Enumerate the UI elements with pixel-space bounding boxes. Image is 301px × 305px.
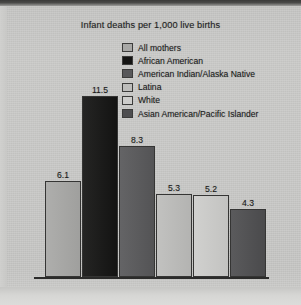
bar-white <box>193 195 229 277</box>
bar-all-mothers <box>45 181 81 277</box>
bar-value-label: 5.2 <box>193 184 229 194</box>
chart-image: Infant deaths per 1,000 live births All … <box>0 0 301 305</box>
bar-latina <box>156 194 192 277</box>
bar-value-label: 4.3 <box>230 198 266 208</box>
bar-value-label: 11.5 <box>82 85 118 95</box>
bar-value-label: 5.3 <box>156 183 192 193</box>
bar-value-label: 8.3 <box>119 135 155 145</box>
x-axis-baseline <box>34 277 269 279</box>
bottom-light-strip <box>0 287 301 305</box>
bar-asian-american-pacific-islander <box>230 209 266 277</box>
bar-american-indian-alaska-native <box>119 146 155 277</box>
bar-value-label: 6.1 <box>45 170 81 180</box>
plot-area: 6.1 11.5 8.3 5.3 5.2 4.3 <box>0 0 301 305</box>
bar-african-american <box>82 96 118 277</box>
